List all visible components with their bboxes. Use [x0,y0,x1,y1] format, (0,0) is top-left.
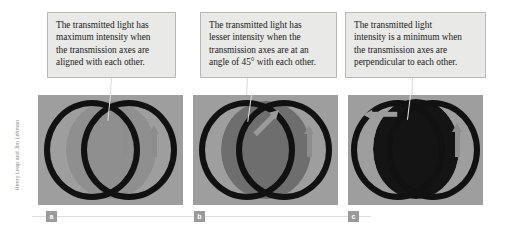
callout-b: The transmitted light has lesser intensi… [200,12,337,78]
panel-label-c: c [348,211,359,222]
axis-arrow-left-c [363,110,397,120]
callout-c: The transmitted light intensity is a min… [345,12,486,78]
callout-a-leader-line [110,78,112,95]
polarizer-ring-right-c [386,100,480,200]
callout-a: The transmitted light has maximum intens… [47,12,176,78]
callout-b-line-4: angle of 45° with each other. [209,56,329,68]
callout-a-line-3: the transmission axes are [56,44,168,56]
photo-credit: Henry Leap and Jim Lehman [14,105,20,205]
callout-c-line-3: the transmission axes are [354,44,478,56]
label-rule-c-right [359,216,371,217]
label-rule-b-right [205,216,348,217]
callout-a-line-2: maximum intensity when [56,31,168,43]
callout-c-leader-line [411,78,413,95]
photo-panel-b [193,95,338,205]
callout-b-line-2: lesser intensity when the [209,31,329,43]
callout-b-line-1: The transmitted light has [209,19,329,31]
callout-a-line-4: aligned with each other. [56,56,168,68]
photo-panel-a [38,95,183,205]
callout-c-line-2: intensity is a minimum when [354,31,478,43]
axis-arrow-right-a [149,125,159,157]
callout-c-line-1: The transmitted light [354,19,478,31]
callout-b-leader-line [246,78,248,95]
callout-b-line-3: transmission axes are at an [209,44,329,56]
photo-panel-c [348,95,483,205]
axis-arrow-right-c [452,123,462,157]
label-rule-a-left [32,216,46,217]
panel-label-a: a [46,211,57,222]
polarizer-ring-right-b [236,100,332,200]
label-rule-a-right [57,216,194,217]
callout-a-line-1: The transmitted light has [56,19,168,31]
polarizer-figure: Henry Leap and Jim Lehman The transmitte… [0,0,509,238]
panel-label-b: b [194,211,205,222]
axis-arrow-right-b [304,125,314,157]
callout-c-line-4: perpendicular to each other. [354,56,478,68]
axis-arrow-left-a [120,123,130,157]
